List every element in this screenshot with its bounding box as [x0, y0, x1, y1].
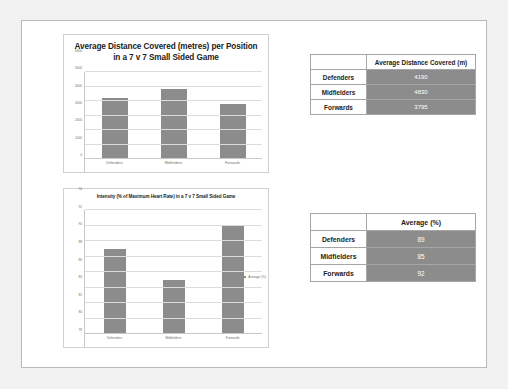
- intensity-chart-plot-area: DefendersMidfieldersForwards: [84, 210, 262, 347]
- distance-chart-y-tick: 6000: [75, 49, 82, 53]
- distance-chart-bar[interactable]: [220, 104, 246, 159]
- distance-chart-y-tick: 3000: [75, 101, 82, 105]
- intensity-chart-y-tick: 78: [78, 328, 82, 332]
- intensity-table-row-value: 89: [367, 231, 476, 248]
- legend-swatch-icon: [240, 276, 246, 278]
- intensity-chart-x-tick: Forwards: [203, 336, 262, 340]
- intensity-chart-gridline: [85, 318, 262, 319]
- distance-chart-y-tick: 5000: [75, 66, 82, 70]
- intensity-chart-gridline: [85, 271, 262, 272]
- distance-chart-plot-wrap: 0100020003000400050006000 DefendersMidfi…: [64, 68, 268, 172]
- intensity-chart-y-tick: 94: [78, 187, 82, 191]
- intensity-table-row-value: 85: [367, 248, 476, 265]
- distance-chart-gridline: [85, 144, 262, 145]
- intensity-chart-grid: [85, 210, 262, 334]
- intensity-chart-x-axis: DefendersMidfieldersForwards: [85, 334, 262, 347]
- intensity-chart-bar[interactable]: [163, 280, 185, 334]
- distance-chart-gridline: [85, 100, 262, 101]
- intensity-chart-x-tick: Defenders: [85, 336, 144, 340]
- intensity-chart-y-tick: 88: [78, 240, 82, 244]
- table-row: Forwards3795: [311, 100, 476, 115]
- distance-chart-gridline: [85, 71, 262, 72]
- distance-table: Average Distance Covered (m) Defenders41…: [310, 54, 476, 115]
- intensity-chart-legend: Average (%): [240, 275, 266, 279]
- distance-chart-x-tick: Defenders: [85, 161, 144, 165]
- intensity-chart-gridline: [85, 240, 262, 241]
- legend-label: Average (%): [248, 275, 266, 279]
- distance-table-row-label: Midfielders: [311, 85, 367, 100]
- slide-page: Average Distance Covered (metres) per Po…: [21, 20, 487, 368]
- intensity-table-value-header: Average (%): [367, 214, 476, 231]
- intensity-chart[interactable]: Intensity (% of Maximum Heart Rate) in a…: [63, 188, 269, 348]
- table-row: Forwards92: [311, 265, 476, 282]
- table-header-row: Average Distance Covered (m): [311, 55, 476, 70]
- distance-table-row-value: 4830: [367, 85, 476, 100]
- intensity-table-row-label: Defenders: [311, 231, 367, 248]
- table-header-row: Average (%): [311, 214, 476, 231]
- intensity-table-body: Defenders89Midfielders85Forwards92: [311, 231, 476, 282]
- intensity-chart-y-tick: 84: [78, 275, 82, 279]
- intensity-chart-y-tick: 82: [78, 293, 82, 297]
- intensity-table-row-label: Forwards: [311, 265, 367, 282]
- intensity-table: Average (%) Defenders89Midfielders85Forw…: [310, 213, 476, 282]
- distance-table-row-label: Forwards: [311, 100, 367, 115]
- distance-chart-title: Average Distance Covered (metres) per Po…: [64, 35, 268, 63]
- intensity-chart-plot-wrap: 788082848688909294 DefendersMidfieldersF…: [64, 206, 268, 347]
- intensity-table-corner-header: [311, 214, 367, 231]
- distance-table-row-value: 4190: [367, 70, 476, 85]
- intensity-chart-y-tick: 80: [78, 310, 82, 314]
- intensity-chart-gridline: [85, 256, 262, 257]
- intensity-chart-y-tick: 90: [78, 222, 82, 226]
- table-row: Defenders89: [311, 231, 476, 248]
- distance-table-row-value: 3795: [367, 100, 476, 115]
- distance-chart-gridline: [85, 86, 262, 87]
- intensity-table-row-label: Midfielders: [311, 248, 367, 265]
- distance-chart-plot-area: DefendersMidfieldersForwards: [84, 72, 262, 172]
- intensity-chart-gridline: [85, 209, 262, 210]
- distance-table-row-label: Defenders: [311, 70, 367, 85]
- intensity-chart-title: Intensity (% of Maximum Heart Rate) in a…: [64, 189, 268, 200]
- intensity-chart-gridline: [85, 287, 262, 288]
- distance-chart-grid: [85, 72, 262, 159]
- distance-table-value-header: Average Distance Covered (m): [367, 55, 476, 70]
- intensity-chart-x-tick: Midfielders: [144, 336, 203, 340]
- table-row: Midfielders85: [311, 248, 476, 265]
- distance-chart-gridline: [85, 115, 262, 116]
- distance-chart-gridline: [85, 129, 262, 130]
- distance-chart-x-tick: Forwards: [203, 161, 262, 165]
- intensity-table-row-value: 92: [367, 265, 476, 282]
- intensity-chart-gridline: [85, 225, 262, 226]
- distance-chart-x-axis: DefendersMidfieldersForwards: [85, 159, 262, 172]
- distance-chart-y-tick: 1000: [75, 136, 82, 140]
- table-row: Midfielders4830: [311, 85, 476, 100]
- intensity-chart-gridline: [85, 302, 262, 303]
- distance-table-corner-header: [311, 55, 367, 70]
- intensity-chart-y-tick: 86: [78, 258, 82, 262]
- intensity-chart-y-axis: 788082848688909294: [64, 206, 84, 347]
- intensity-chart-bars: [85, 210, 262, 334]
- distance-chart-x-tick: Midfielders: [144, 161, 203, 165]
- distance-chart-y-tick: 0: [80, 153, 82, 157]
- distance-chart[interactable]: Average Distance Covered (metres) per Po…: [63, 34, 269, 173]
- distance-chart-y-axis: 0100020003000400050006000: [64, 68, 84, 172]
- intensity-chart-y-tick: 92: [78, 205, 82, 209]
- table-row: Defenders4190: [311, 70, 476, 85]
- distance-chart-y-tick: 4000: [75, 84, 82, 88]
- intensity-chart-bar[interactable]: [104, 249, 126, 334]
- distance-chart-y-tick: 2000: [75, 118, 82, 122]
- distance-table-body: Defenders4190Midfielders4830Forwards3795: [311, 70, 476, 115]
